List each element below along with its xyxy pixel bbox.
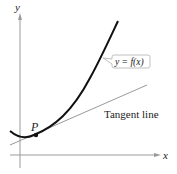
x-axis-arrow (154, 153, 161, 157)
point-p-label: P (30, 120, 39, 134)
axes: y x (10, 1, 168, 168)
curve-f-of-x (10, 21, 118, 137)
y-axis-arrow (18, 13, 22, 20)
tangent-line-diagram: y x P y = f(x) Tangent line (0, 0, 177, 174)
curve-label: y = f(x) (114, 57, 144, 68)
x-axis-label: x (162, 149, 168, 161)
tangent-line-label: Tangent line (104, 108, 159, 120)
curve-label-callout: y = f(x) (103, 55, 150, 68)
y-axis-label: y (14, 1, 20, 13)
